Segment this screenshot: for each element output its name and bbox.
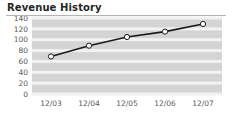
y-axis-tick-label: 100 bbox=[14, 35, 29, 44]
data-point-marker[interactable] bbox=[162, 29, 167, 34]
gridline bbox=[32, 93, 222, 96]
line-chart-svg: 020406080100120140 12/0312/0412/0512/061… bbox=[0, 16, 232, 116]
x-axis-tick-label: 12/03 bbox=[40, 99, 62, 108]
gridline bbox=[32, 27, 222, 30]
y-axis-tick-label: 40 bbox=[18, 68, 28, 77]
y-axis-tick-label: 0 bbox=[23, 90, 28, 99]
x-axis-labels-group: 12/0312/0412/0512/0612/07 bbox=[40, 99, 214, 108]
gridline bbox=[32, 17, 222, 20]
data-point-marker[interactable] bbox=[48, 54, 53, 59]
y-axis-tick-label: 120 bbox=[14, 25, 29, 34]
data-point-marker[interactable] bbox=[124, 34, 129, 39]
y-axis-tick-label: 80 bbox=[18, 46, 28, 55]
x-axis-tick-label: 12/07 bbox=[192, 99, 214, 108]
chart-plot-area: 020406080100120140 12/0312/0412/0512/061… bbox=[0, 16, 232, 116]
revenue-history-chart-widget: Revenue History 020406080100120140 12/03… bbox=[0, 0, 232, 116]
gridline bbox=[32, 71, 222, 74]
gridline bbox=[32, 82, 222, 85]
y-axis-labels-group: 020406080100120140 bbox=[14, 16, 29, 99]
x-axis-tick-label: 12/06 bbox=[154, 99, 176, 108]
y-axis-tick-label: 140 bbox=[14, 16, 29, 23]
data-point-marker[interactable] bbox=[86, 43, 91, 48]
y-axis-tick-label: 60 bbox=[18, 57, 28, 66]
gridline bbox=[32, 60, 222, 63]
page-title: Revenue History bbox=[7, 2, 102, 13]
x-axis-tick-label: 12/05 bbox=[116, 99, 138, 108]
gridline bbox=[32, 49, 222, 52]
data-point-marker[interactable] bbox=[200, 21, 205, 26]
y-axis-tick-label: 20 bbox=[18, 79, 28, 88]
x-axis-tick-label: 12/04 bbox=[78, 99, 100, 108]
